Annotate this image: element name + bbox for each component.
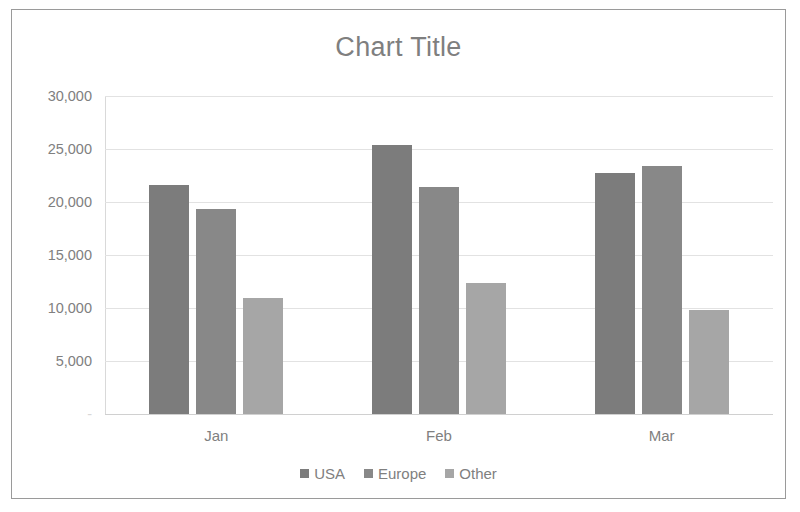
- plot-area: JanFebMar: [105, 96, 773, 414]
- bar-europe-mar[interactable]: [642, 166, 682, 414]
- bar-other-jan[interactable]: [243, 298, 283, 414]
- legend-item-other[interactable]: Other: [445, 465, 497, 482]
- chart-title: Chart Title: [12, 32, 785, 63]
- y-tick-label: 25,000: [48, 141, 92, 157]
- y-tick-label: 15,000: [48, 247, 92, 263]
- bar-usa-mar[interactable]: [595, 173, 635, 414]
- y-tick-label: 20,000: [48, 194, 92, 210]
- y-axis-tick-labels: -5,00010,00015,00020,00025,00030,000: [12, 96, 92, 414]
- x-axis-category-label: Feb: [328, 427, 551, 444]
- x-axis-category-label: Jan: [105, 427, 328, 444]
- bar-other-mar[interactable]: [689, 310, 729, 414]
- y-tick-label: 10,000: [48, 300, 92, 316]
- y-tick-label: 5,000: [56, 353, 92, 369]
- chart-container[interactable]: Chart Title -5,00010,00015,00020,00025,0…: [11, 9, 786, 499]
- gridline-0: [105, 414, 773, 415]
- legend-label: Other: [459, 465, 497, 482]
- bar-other-feb[interactable]: [466, 283, 506, 414]
- bar-usa-feb[interactable]: [372, 145, 412, 414]
- y-tick-label: 30,000: [48, 88, 92, 104]
- bar-group: Jan: [105, 96, 328, 414]
- chart-legend[interactable]: USAEuropeOther: [12, 465, 785, 482]
- x-axis-category-label: Mar: [550, 427, 773, 444]
- bar-europe-jan[interactable]: [196, 209, 236, 414]
- legend-swatch-icon: [300, 469, 309, 478]
- bar-usa-jan[interactable]: [149, 185, 189, 414]
- legend-item-europe[interactable]: Europe: [364, 465, 426, 482]
- legend-label: Europe: [378, 465, 426, 482]
- y-tick-label: -: [87, 406, 92, 422]
- legend-swatch-icon: [364, 469, 373, 478]
- legend-item-usa[interactable]: USA: [300, 465, 345, 482]
- bar-group: Feb: [328, 96, 551, 414]
- legend-label: USA: [314, 465, 345, 482]
- bar-group: Mar: [550, 96, 773, 414]
- legend-swatch-icon: [445, 469, 454, 478]
- bar-europe-feb[interactable]: [419, 187, 459, 414]
